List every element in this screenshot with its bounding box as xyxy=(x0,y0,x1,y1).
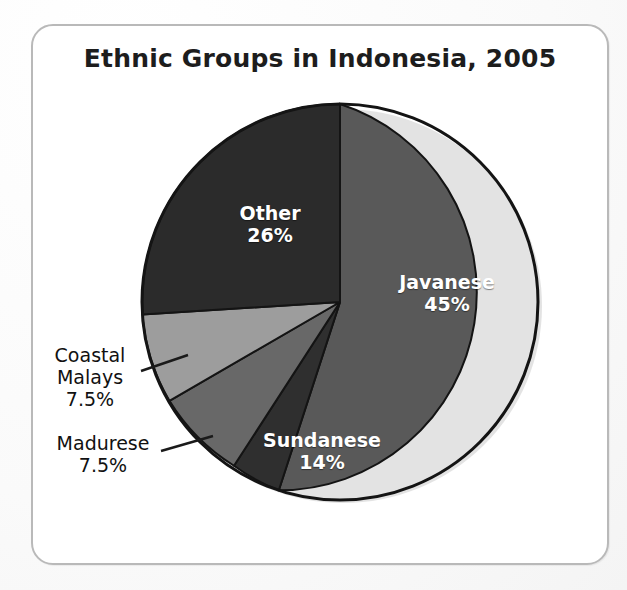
callout-coastal-malays-line2: Malays xyxy=(30,366,150,388)
page-title: Ethnic Groups in Indonesia, 2005 xyxy=(31,44,609,73)
slice-label-sundanese: Sundanese 14% xyxy=(247,430,397,473)
callout-madurese-line1: Madurese xyxy=(28,432,178,454)
slice-label-sundanese-value: 14% xyxy=(247,452,397,474)
callout-label-coastal-malays: Coastal Malays 7.5% xyxy=(30,344,150,410)
slice-label-other: Other 26% xyxy=(215,203,325,246)
slice-label-javanese: Javanese 45% xyxy=(382,272,512,315)
slice-label-other-value: 26% xyxy=(215,225,325,247)
callout-madurese-value: 7.5% xyxy=(28,454,178,476)
callout-coastal-malays-line1: Coastal xyxy=(30,344,150,366)
callout-coastal-malays-value: 7.5% xyxy=(30,388,150,410)
callout-label-madurese: Madurese 7.5% xyxy=(28,432,178,476)
slice-label-javanese-name: Javanese xyxy=(382,272,512,294)
slice-label-sundanese-name: Sundanese xyxy=(247,430,397,452)
slice-label-other-name: Other xyxy=(215,203,325,225)
chart-page: Ethnic Groups in Indonesia, 2005 xyxy=(0,0,627,590)
slice-label-javanese-value: 45% xyxy=(382,294,512,316)
